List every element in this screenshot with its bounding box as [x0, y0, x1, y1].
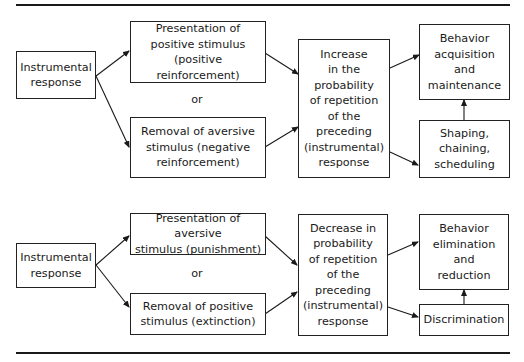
discrimination-box: Discrimination [419, 304, 509, 336]
decrease-probability-box: Decrease in probability of repetition of… [298, 214, 388, 336]
instrumental-response-box-top: Instrumental response [16, 51, 96, 99]
punishment-box: Presentation of aversive stimulus (punis… [130, 213, 266, 255]
extinction-box: Removal of positive stimulus (extinction… [130, 293, 266, 335]
behavior-elimination-box: Behavior elimination and reduction [419, 214, 509, 290]
behavior-acquisition-box: Behavior acquisition and maintenance [419, 24, 510, 100]
or-label-bottom: or [177, 267, 217, 280]
instrumental-response-box-bottom: Instrumental response [16, 243, 96, 288]
negative-reinforcement-box: Removal of aversive stimulus (negative r… [130, 117, 266, 178]
increase-probability-box: Increase in the probability of repetitio… [298, 39, 390, 178]
positive-reinforcement-box: Presentation of positive stimulus (posit… [130, 21, 266, 83]
or-label-top: or [177, 93, 217, 106]
shaping-box: Shaping, chaining, scheduling [419, 120, 510, 178]
